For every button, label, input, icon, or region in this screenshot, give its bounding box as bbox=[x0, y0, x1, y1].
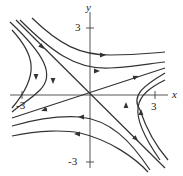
traj-right2 bbox=[137, 73, 168, 160]
arrow-sep4 bbox=[134, 137, 136, 139]
traj-right1 bbox=[138, 80, 165, 160]
axes bbox=[10, 12, 168, 168]
x-axis-label: x bbox=[172, 89, 177, 100]
y-tick-label-neg3: -3 bbox=[68, 156, 77, 167]
unstable-separatrix bbox=[12, 68, 165, 118]
traj-bot1 bbox=[12, 117, 150, 170]
x-tick-label-3: 3 bbox=[151, 101, 157, 112]
y-tick-label-3: 3 bbox=[75, 22, 81, 33]
traj-top1 bbox=[32, 18, 165, 55]
y-axis-label: y bbox=[86, 2, 91, 13]
stable-separatrix bbox=[16, 20, 165, 168]
x-tick-label-neg3: -3 bbox=[16, 100, 25, 111]
arrow-sep3 bbox=[44, 109, 47, 110]
phase-portrait bbox=[0, 0, 183, 176]
traj-bot2 bbox=[12, 131, 148, 172]
